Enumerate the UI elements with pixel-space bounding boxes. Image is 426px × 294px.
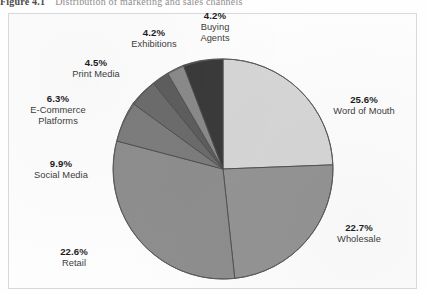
pie-slices <box>113 59 333 279</box>
figure-caption-label: Figure 4.1 <box>0 0 45 7</box>
pie-label-retail: 22.6% Retail <box>18 246 130 269</box>
pie-label-buying-agents-value: 4.2% <box>178 10 252 22</box>
pie-label-social-media-value: 9.9% <box>6 158 116 170</box>
pie-label-print-media-value: 4.5% <box>44 57 148 69</box>
pie-label-word-of-mouth-name: Word of Mouth <box>312 106 416 118</box>
pie-label-wholesale-name: Wholesale <box>313 234 405 246</box>
pie-label-wholesale-value: 22.7% <box>313 222 405 234</box>
scanned-page: Figure 4.1Distribution of marketing and … <box>0 0 426 294</box>
pie-label-retail-value: 22.6% <box>18 246 130 258</box>
pie-label-word-of-mouth-value: 25.6% <box>312 94 416 106</box>
pie-label-word-of-mouth: 25.6% Word of Mouth <box>312 94 416 117</box>
pie-label-ecommerce-platforms-value: 6.3% <box>4 93 112 105</box>
pie-label-retail-name: Retail <box>18 258 130 270</box>
pie-label-buying-agents: 4.2% Buying Agents <box>178 10 252 45</box>
pie-label-print-media: 4.5% Print Media <box>44 57 148 80</box>
figure-caption-text: Distribution of marketing and sales chan… <box>55 0 242 7</box>
pie-label-buying-agents-name-line2: Agents <box>178 33 252 45</box>
pie-label-print-media-name: Print Media <box>44 69 148 81</box>
pie-label-ecommerce-platforms: 6.3% E-Commerce Platforms <box>4 93 112 128</box>
pie-label-wholesale: 22.7% Wholesale <box>313 222 405 245</box>
pie-label-social-media-name: Social Media <box>6 170 116 182</box>
pie-label-buying-agents-name-line1: Buying <box>178 22 252 34</box>
pie-label-social-media: 9.9% Social Media <box>6 158 116 181</box>
pie-label-ecommerce-platforms-name-line2: Platforms <box>4 116 112 128</box>
figure-caption: Figure 4.1Distribution of marketing and … <box>0 0 426 9</box>
pie-label-ecommerce-platforms-name-line1: E-Commerce <box>4 105 112 117</box>
